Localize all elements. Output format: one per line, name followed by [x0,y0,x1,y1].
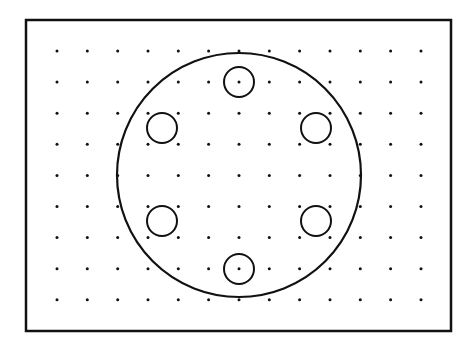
grid-dot [116,50,119,53]
grid-dot [56,81,59,84]
grid-dot [207,81,210,84]
grid-dot [298,143,301,146]
grid-dot [147,112,150,115]
grid-dot [420,50,423,53]
grid-dot [56,267,59,270]
grid-dot [147,298,150,301]
grid-dot [238,143,241,146]
grid-dot [56,298,59,301]
grid-dot [116,298,119,301]
grid-dot [238,205,241,208]
grid-dot [329,81,332,84]
grid-dot [56,143,59,146]
grid-dot [298,205,301,208]
grid-dot [116,143,119,146]
grid-dot [268,143,271,146]
grid-dot [268,174,271,177]
grid-dot [298,267,301,270]
grid-dot [268,267,271,270]
grid-dot [329,174,332,177]
grid-dot [420,81,423,84]
grid-dot [359,50,362,53]
grid-dot [268,205,271,208]
hole-upper-right [301,113,331,143]
grid-dot [177,298,180,301]
grid-dot [207,112,210,115]
grid-dot [329,267,332,270]
grid-dot [329,205,332,208]
grid-dot [86,112,89,115]
grid-dot [86,205,89,208]
grid-dot [268,112,271,115]
grid-dot [207,236,210,239]
grid-dot [268,81,271,84]
grid-dot [238,112,241,115]
grid-dot [389,50,392,53]
grid-dot [86,50,89,53]
grid-dot [86,236,89,239]
grid-dot [56,236,59,239]
grid-dot [207,143,210,146]
grid-dot [147,205,150,208]
grid-dot [359,236,362,239]
grid-dot [147,81,150,84]
grid-dot [238,81,241,84]
grid-dot [268,236,271,239]
grid-dot [86,143,89,146]
grid-dot [207,298,210,301]
grid-dot [207,205,210,208]
grid-dot [329,143,332,146]
grid-dot [56,205,59,208]
grid-dot [329,236,332,239]
grid-dot [359,267,362,270]
grid-dot [207,50,210,53]
grid-dot [177,174,180,177]
grid-dot [420,143,423,146]
grid-dot [420,236,423,239]
grid-dot [177,205,180,208]
grid-dot [359,112,362,115]
grid-dot [116,267,119,270]
grid-dot [389,112,392,115]
grid-dot [389,143,392,146]
grid-dot [359,81,362,84]
grid-dot [389,81,392,84]
grid-dot [86,81,89,84]
grid-dot [116,205,119,208]
grid-dot [177,267,180,270]
grid-dot [298,298,301,301]
grid-dot [359,143,362,146]
grid-dot [238,174,241,177]
grid-dot [86,298,89,301]
grid-dot [86,174,89,177]
grid-dot [420,174,423,177]
grid-dot [298,174,301,177]
grid-dot [359,205,362,208]
grid-dot [238,267,241,270]
grid-dot [147,267,150,270]
grid-dot [147,143,150,146]
dot-grid [56,50,423,302]
diagram-canvas [0,0,469,349]
grid-dot [147,50,150,53]
grid-dot [420,205,423,208]
grid-dot [268,298,271,301]
grid-dot [238,298,241,301]
grid-dot [116,112,119,115]
grid-dot [298,112,301,115]
grid-dot [420,298,423,301]
grid-dot [56,50,59,53]
grid-dot [56,112,59,115]
grid-dot [389,174,392,177]
grid-dot [147,174,150,177]
grid-dot [86,267,89,270]
grid-dot [56,174,59,177]
grid-dot [420,112,423,115]
grid-dot [177,236,180,239]
grid-dot [268,50,271,53]
grid-dot [420,267,423,270]
grid-dot [116,81,119,84]
grid-dot [359,298,362,301]
grid-dot [116,236,119,239]
grid-dot [147,236,150,239]
